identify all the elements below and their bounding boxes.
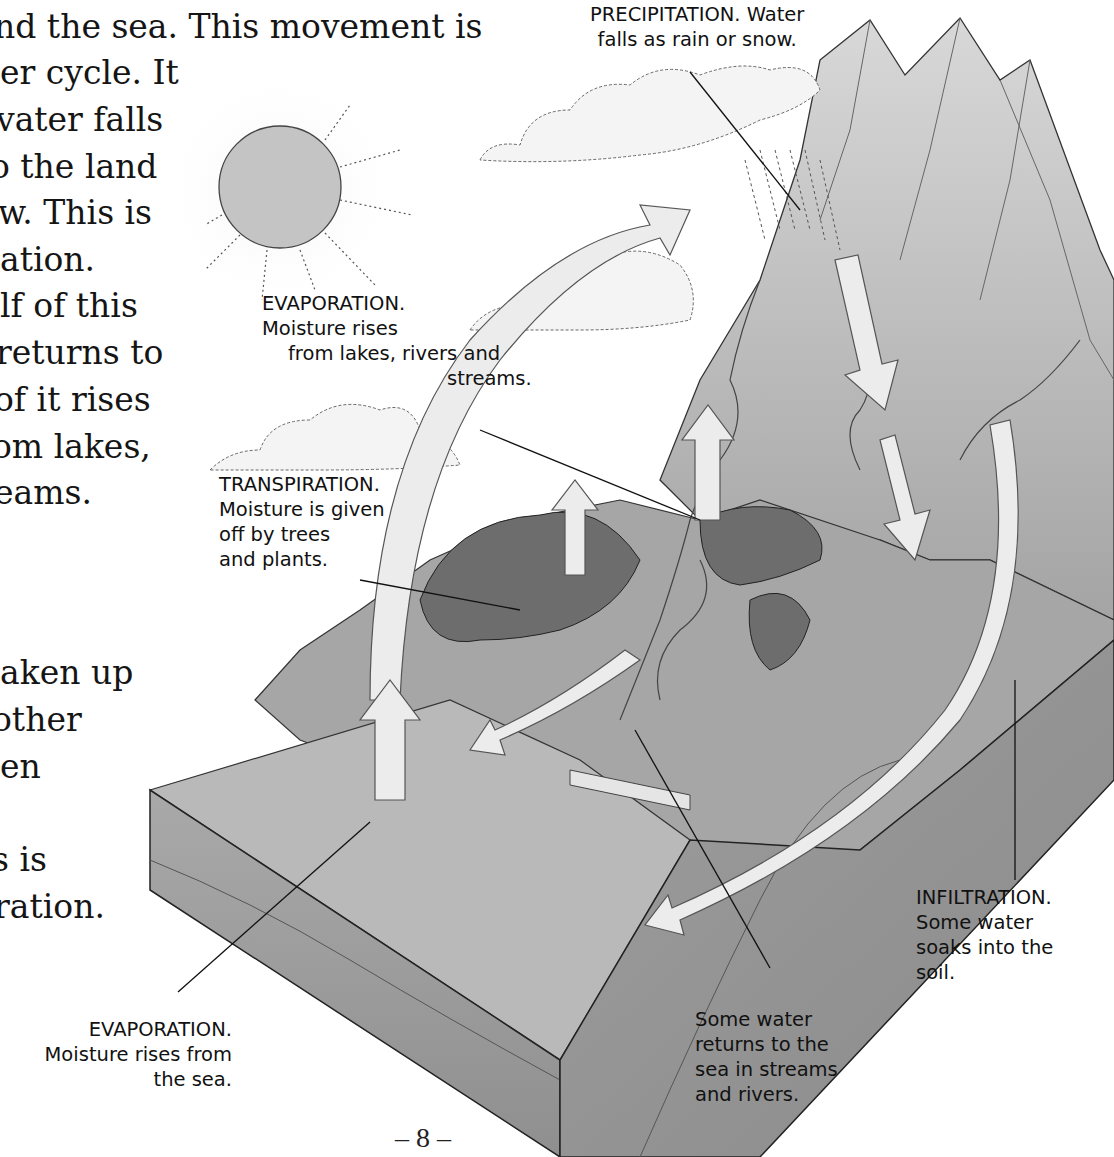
label-evaporation-lakes-line: streams. xyxy=(262,366,532,391)
label-precipitation: PRECIPITATION. Water falls as rain or sn… xyxy=(590,2,804,52)
label-infiltration-line: soaks into the xyxy=(916,935,1053,960)
label-runoff-line: sea in streams xyxy=(695,1057,838,1082)
label-precipitation-line: PRECIPITATION. Water xyxy=(590,2,804,27)
label-infiltration: INFILTRATION. Some water soaks into the … xyxy=(916,885,1053,985)
label-evaporation-lakes-line: from lakes, rivers and xyxy=(262,341,532,366)
label-evaporation-sea-line: EVAPORATION. xyxy=(0,1017,232,1042)
label-infiltration-line: soil. xyxy=(916,960,1053,985)
label-transpiration-line: and plants. xyxy=(219,547,385,572)
label-runoff-line: Some water xyxy=(695,1007,838,1032)
label-runoff-line: and rivers. xyxy=(695,1082,838,1107)
label-transpiration-line: TRANSPIRATION. xyxy=(219,472,385,497)
label-infiltration-line: Some water xyxy=(916,910,1053,935)
label-evaporation-lakes: EVAPORATION. Moisture rises from lakes, … xyxy=(262,291,532,391)
label-evaporation-sea-line: Moisture rises from xyxy=(0,1042,232,1067)
label-precipitation-line: falls as rain or snow. xyxy=(590,27,804,52)
label-transpiration-line: Moisture is given xyxy=(219,497,385,522)
label-runoff: Some water returns to the sea in streams… xyxy=(695,1007,838,1107)
label-transpiration-line: off by trees xyxy=(219,522,385,547)
label-infiltration-line: INFILTRATION. xyxy=(916,885,1053,910)
label-runoff-line: returns to the xyxy=(695,1032,838,1057)
label-evaporation-sea: EVAPORATION. Moisture rises from the sea… xyxy=(0,1017,232,1092)
label-evaporation-lakes-line: Moisture rises xyxy=(262,316,532,341)
label-evaporation-lakes-line: EVAPORATION. xyxy=(262,291,532,316)
label-transpiration: TRANSPIRATION. Moisture is given off by … xyxy=(219,472,385,572)
label-evaporation-sea-line: the sea. xyxy=(0,1067,232,1092)
sun-icon xyxy=(160,70,412,310)
page-number: – 8 – xyxy=(395,1122,451,1154)
